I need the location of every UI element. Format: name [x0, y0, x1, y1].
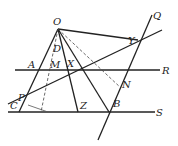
label-p: P — [17, 92, 25, 103]
label-o: O — [53, 16, 61, 27]
segment-c-foot — [28, 105, 48, 112]
line-bq — [98, 15, 152, 140]
geometry-diagram: O Q Y D A M X R N P C Z B S — [0, 0, 178, 146]
segment-oy — [58, 29, 138, 40]
label-n: N — [121, 79, 132, 90]
label-z: Z — [79, 100, 88, 111]
label-d: D — [52, 43, 61, 54]
label-c: C — [10, 100, 18, 111]
label-b: B — [112, 98, 120, 109]
label-q: Q — [153, 10, 161, 21]
label-a: A — [27, 59, 35, 70]
label-m: M — [49, 59, 61, 70]
label-y: Y — [128, 35, 136, 46]
label-s: S — [156, 107, 163, 118]
label-x: X — [66, 58, 75, 69]
label-r: R — [161, 65, 170, 76]
